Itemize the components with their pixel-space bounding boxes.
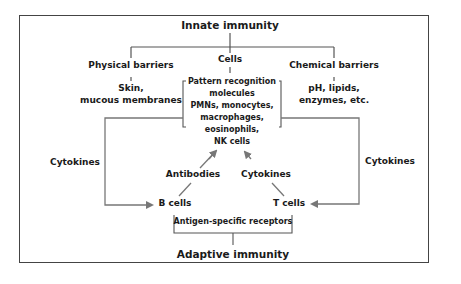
cells-list-line2: molecules [209,89,254,98]
adaptive-immunity-title: Adaptive immunity [177,248,289,260]
b-cells-node: B cells [159,198,192,208]
innate-immunity-title: Innate immunity [181,19,279,31]
center-cytokines-label: Cytokines [241,169,291,179]
right-cytokines-label: Cytokines [365,156,415,166]
cells-list-line5: eosinophils, [205,125,259,134]
antigen-receptors-label: Antigen-specific receptors [174,217,293,226]
chemical-barriers-label: Chemical barriers [289,60,379,70]
t-cells-node: T cells [273,198,305,208]
left-cytokines-label: Cytokines [50,157,100,167]
center-cytokines-arrow [245,152,251,159]
chemical-examples-line2: enzymes, etc. [299,95,369,105]
cells-list-line1: Pattern recognition [188,77,276,86]
cells-list-line6: NK cells [214,137,250,146]
cells-list-line3: PMNs, monocytes, [190,101,273,110]
physical-examples-line2: mucous membranes [80,95,182,105]
physical-barriers-label: Physical barriers [88,60,173,70]
chemical-examples-line1: pH, lipids, [308,83,359,93]
cells-list-line4: macrophages, [200,113,264,122]
cells-label: Cells [218,54,242,64]
antibodies-label: Antibodies [166,169,220,179]
right-cytokines-arrow [281,118,359,204]
left-cytokines-arrow [105,118,183,205]
physical-examples-line1: Skin, [118,83,143,93]
